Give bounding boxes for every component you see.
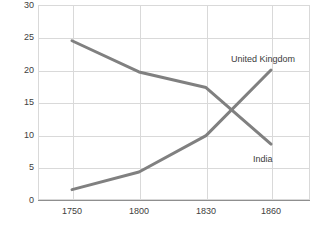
series-label-united-kingdom: United Kingdom <box>231 54 295 65</box>
x-tick-label-1750: 1750 <box>52 206 92 217</box>
series-line-india <box>72 70 271 190</box>
x-tick-label-1860: 1860 <box>251 206 291 217</box>
x-tick-label-1800: 1800 <box>119 206 159 217</box>
line-chart: 30 25 20 15 10 5 0 1750 1800 1830 1860 U… <box>0 0 322 237</box>
x-tick-label-1830: 1830 <box>186 206 226 217</box>
series-container <box>0 0 322 237</box>
series-label-india: India <box>253 154 273 165</box>
